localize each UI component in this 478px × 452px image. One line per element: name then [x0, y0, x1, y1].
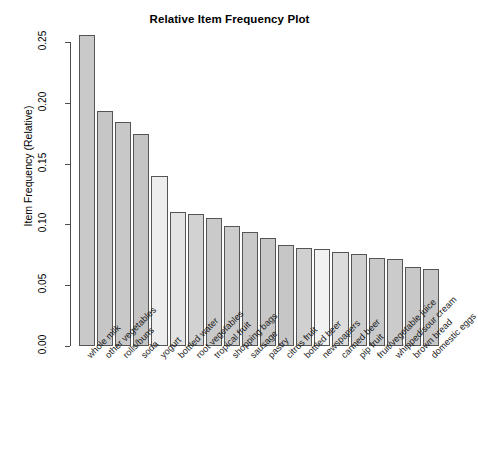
- y-axis-line: [70, 42, 71, 346]
- bar: [170, 212, 186, 346]
- bar: [79, 35, 95, 346]
- bar: [97, 111, 113, 346]
- y-tick-label: 0.10: [37, 203, 48, 243]
- y-tick-mark: [65, 285, 70, 286]
- y-tick-label: 0.00: [37, 325, 48, 365]
- chart-title: Relative Item Frequency Plot: [0, 13, 459, 25]
- y-tick-mark: [65, 164, 70, 165]
- y-tick-label: 0.15: [37, 142, 48, 182]
- y-tick-mark: [65, 346, 70, 347]
- y-tick-label: 0.05: [37, 264, 48, 304]
- y-tick-label: 0.25: [37, 21, 48, 61]
- y-tick-mark: [65, 103, 70, 104]
- y-tick-mark: [65, 224, 70, 225]
- bar: [278, 245, 294, 346]
- bar: [115, 122, 131, 346]
- y-tick-mark: [65, 42, 70, 43]
- y-axis-label: Item Frequency (Relative): [22, 76, 34, 256]
- bar: [151, 176, 167, 346]
- y-tick-label: 0.20: [37, 81, 48, 121]
